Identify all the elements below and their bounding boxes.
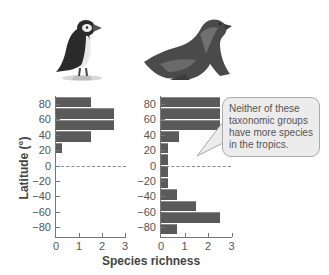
right-x-tick <box>185 233 186 237</box>
right-x-tick-label: 3 <box>226 240 238 252</box>
right-bar <box>161 97 220 108</box>
right-bar <box>161 154 168 165</box>
right-y-tick-label: 20 <box>130 144 156 156</box>
right-bar <box>161 108 220 119</box>
right-y-tick-label: −40 <box>130 190 156 202</box>
right-y-tick <box>161 166 165 167</box>
right-bar <box>161 224 177 235</box>
right-bar <box>161 143 168 154</box>
right-x-tick-label: 0 <box>155 240 167 252</box>
right-bar <box>161 201 196 212</box>
right-y-tick-label: 0 <box>130 160 156 172</box>
right-y-tick-label: −60 <box>130 206 156 218</box>
callout-pointer-cover <box>223 118 229 140</box>
right-bar <box>161 178 168 189</box>
right-y-tick-label: −20 <box>130 175 156 187</box>
right-y-tick <box>161 227 165 228</box>
right-y-tick-label: 40 <box>130 129 156 141</box>
right-x-tick-label: 2 <box>202 240 214 252</box>
right-y-tick-label: −80 <box>130 221 156 233</box>
right-bar <box>161 212 220 223</box>
right-x-tick-label: 1 <box>179 240 191 252</box>
x-axis-title: Species richness <box>102 254 200 268</box>
right-bar <box>161 166 168 177</box>
right-y-tick <box>161 104 165 105</box>
right-y-tick <box>161 212 165 213</box>
right-y-tick <box>161 181 165 182</box>
right-x-axis <box>160 237 232 238</box>
right-y-tick <box>161 196 165 197</box>
right-bar <box>161 189 177 200</box>
right-bar <box>161 131 179 142</box>
right-y-tick-label: 60 <box>130 113 156 125</box>
right-x-tick <box>232 233 233 237</box>
right-y-tick <box>161 135 165 136</box>
callout-annotation: Neither of these taxonomic groups have m… <box>222 97 320 157</box>
right-y-tick <box>161 119 165 120</box>
right-zero-line <box>161 166 231 167</box>
right-x-tick <box>208 233 209 237</box>
right-y-tick <box>161 150 165 151</box>
right-y-tick-label: 80 <box>130 98 156 110</box>
